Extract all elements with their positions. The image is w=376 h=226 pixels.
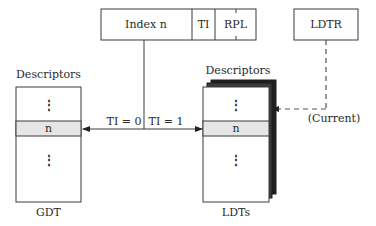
- ti0-label: TI = 0: [107, 115, 142, 128]
- ldt-ellipsis-bottom: ⋮: [230, 153, 242, 167]
- ldt-caption: LDTs: [222, 206, 251, 219]
- ldt-tables: Descriptors ⋮ n ⋮ LDTs: [203, 64, 276, 219]
- selector-ti-field: TI: [198, 18, 210, 31]
- gdt-caption: GDT: [36, 206, 62, 219]
- selector-index-field: Index n: [125, 18, 167, 31]
- ldtr-current-pointer: (Current): [272, 40, 360, 125]
- gdt-row-label: n: [45, 122, 52, 135]
- ldtr-label: LDTR: [310, 18, 342, 31]
- ldtr-register: LDTR: [294, 9, 358, 40]
- gdt-ellipsis-bottom: ⋮: [43, 153, 55, 167]
- ldt-header: Descriptors: [206, 64, 271, 77]
- gdt-ellipsis-top: ⋮: [43, 98, 55, 112]
- ldt-ellipsis-top: ⋮: [230, 98, 242, 112]
- current-label: (Current): [308, 112, 361, 125]
- segment-selector-diagram: Index n TI RPL LDTR (Current) TI = 0 TI …: [0, 0, 376, 226]
- segment-selector: Index n TI RPL: [101, 9, 256, 40]
- gdt-table: Descriptors ⋮ n ⋮ GDT: [16, 68, 81, 219]
- ti1-label: TI = 1: [149, 115, 184, 128]
- ldt-row-label: n: [232, 122, 239, 135]
- selector-rpl-field: RPL: [224, 18, 248, 31]
- gdt-header: Descriptors: [16, 68, 81, 81]
